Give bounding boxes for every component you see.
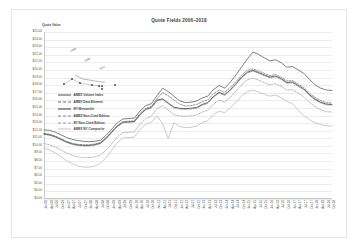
- x-axis-tick-label: Jan-09: [113, 200, 116, 209]
- y-axis-tick-label: $4.00: [34, 190, 42, 193]
- legend-item-label: AMEX NY Composite: [74, 127, 105, 131]
- y-axis-tick-label: $13.00: [33, 122, 42, 125]
- legend-item[interactable]: NY Non-Cited Edition: [58, 121, 109, 125]
- chart-legend: AMEX Volume IndexAMEX Data ElementNY Mer…: [58, 93, 109, 131]
- annotation-label: 2006: [70, 46, 78, 53]
- annotation-inset: 200620092012: [58, 40, 142, 90]
- x-axis-tick-label: Jan-18: [316, 200, 319, 209]
- y-axis-tick-label: $11.00: [33, 137, 42, 140]
- x-axis-tick-label: Jan-06: [45, 200, 48, 209]
- annotation-label: 2009: [84, 56, 92, 63]
- x-axis-tick-label: Oct-13: [220, 200, 223, 209]
- y-axis-tick-label: $24.00: [33, 38, 42, 41]
- x-axis-tick-label: Jul-17: [305, 200, 308, 208]
- x-axis-tick-label: Jul-06: [56, 200, 59, 208]
- y-axis-tick-label: $15.00: [33, 106, 42, 109]
- y-axis-tick-label: $25.00: [33, 30, 42, 33]
- y-axis-tick-label: $17.00: [33, 91, 42, 94]
- y-axis-tick-label: $5.00: [34, 182, 42, 185]
- x-axis-tick-label: Apr-09: [119, 200, 122, 209]
- y-axis-title: Quote Value: [42, 23, 60, 27]
- y-axis-tick-label: $6.00: [34, 175, 42, 178]
- x-axis-tick-label: Jan-12: [181, 200, 184, 209]
- x-axis-tick-label: Jan-14: [226, 200, 229, 209]
- annotation-marker: [91, 84, 93, 86]
- x-axis-tick-label: Oct-16: [288, 200, 291, 209]
- y-axis-tick-label: $10.00: [33, 144, 42, 147]
- y-axis-tick-label: $22.00: [33, 53, 42, 56]
- y-axis-tick-label: $21.00: [33, 61, 42, 64]
- x-axis-tick-label: Apr-17: [299, 200, 302, 209]
- x-axis-tick-label: Jul-15: [260, 200, 263, 208]
- y-axis-tick-label: $14.00: [33, 114, 42, 117]
- legend-item-label: NY Non-Cited Edition: [74, 121, 105, 125]
- y-axis-tick-label: $8.00: [34, 159, 42, 162]
- y-axis-tick-label: $20.00: [33, 68, 42, 71]
- x-axis-tick-label: Oct-08: [107, 200, 110, 209]
- annotation-marker: [63, 83, 65, 85]
- x-axis-tick-label: Jul-14: [237, 200, 240, 208]
- annotation-marker: [101, 85, 103, 87]
- y-axis-tick-label: $3.00: [34, 197, 42, 200]
- y-axis-tick-label: $19.00: [33, 76, 42, 79]
- x-axis-tick-label: Oct-17: [311, 200, 314, 209]
- x-axis-tick-label: Oct-06: [62, 200, 65, 209]
- legend-item[interactable]: AMEX Volume Index: [58, 93, 109, 97]
- x-axis-tick-label: Jul-10: [147, 200, 150, 208]
- x-axis-tick-label: Jan-11: [158, 200, 161, 209]
- x-axis-tick-label: Jul-07: [79, 200, 82, 208]
- legend-color-swatch: [58, 100, 71, 103]
- x-axis-tick-label: Jul-12: [192, 200, 195, 208]
- y-axis-tick-label: $9.00: [34, 152, 42, 155]
- legend-item[interactable]: AMEX NY Composite: [58, 127, 109, 131]
- x-axis-tick-label: Oct-10: [152, 200, 155, 209]
- x-axis-tick-label: Apr-08: [96, 200, 99, 209]
- legend-color-swatch: [58, 121, 71, 124]
- chart-title: Quote Fields 2006–2018: [12, 18, 346, 23]
- x-axis-tick-label: Oct-15: [265, 200, 268, 209]
- x-axis-tick-label: Apr-15: [254, 200, 257, 209]
- legend-item[interactable]: NY Mercantile: [58, 107, 109, 111]
- y-axis-tick-label: $18.00: [33, 84, 42, 87]
- x-axis-tick-label: Jul-08: [102, 200, 105, 208]
- annotation-label: 2012: [99, 64, 107, 71]
- y-axis-tick-label: $7.00: [34, 167, 42, 170]
- x-axis-tick-label: Apr-10: [141, 200, 144, 209]
- x-axis-tick-label: Oct-07: [85, 200, 88, 209]
- legend-item-label: AMEX Data Element: [74, 100, 103, 104]
- x-axis-tick-label: Jul-16: [282, 200, 285, 208]
- annotation-marker: [98, 85, 100, 87]
- x-axis-tick-label: Apr-13: [209, 200, 212, 209]
- annotation-line: [75, 75, 105, 82]
- x-axis-tick-label: Oct-11: [175, 200, 178, 208]
- annotation-marker: [101, 88, 103, 90]
- legend-item-label: AMEX Volume Index: [74, 93, 104, 97]
- x-axis-tick-label: Jul-09: [124, 200, 127, 208]
- legend-color-swatch: [58, 107, 71, 110]
- y-axis-tick-label: $16.00: [33, 99, 42, 102]
- legend-color-swatch: [58, 94, 71, 97]
- annotation-line: [64, 79, 99, 86]
- x-axis-tick-label: Jan-17: [294, 200, 297, 209]
- annotation-marker: [114, 84, 116, 86]
- x-axis-tick-label: Apr-07: [73, 200, 76, 209]
- legend-item-label: AMEX Non-Cited Edition: [74, 114, 110, 118]
- legend-item[interactable]: AMEX Data Element: [58, 100, 109, 104]
- annotation-marker: [71, 78, 73, 80]
- x-axis-tick-label: Apr-16: [277, 200, 280, 209]
- x-axis-tick-label: Oct-09: [130, 200, 133, 209]
- legend-item[interactable]: AMEX Non-Cited Edition: [58, 114, 109, 118]
- y-axis-tick-label: $23.00: [33, 46, 42, 49]
- x-axis-tick-label: Oct-14: [243, 200, 246, 209]
- x-axis-tick-label: Apr-14: [232, 200, 235, 209]
- chart-frame: Quote Fields 2006–2018 Quote Value $25.0…: [11, 9, 347, 238]
- x-axis-tick-label: Jan-15: [248, 200, 251, 209]
- x-axis-tick-label: Jul-11: [169, 200, 172, 208]
- y-axis-tick-label: $12.00: [33, 129, 42, 132]
- x-axis-tick-label: Jan-08: [90, 200, 93, 209]
- x-axis-tick-label: Jan-07: [68, 200, 71, 209]
- x-axis-tick-label: Apr-12: [186, 200, 189, 209]
- x-axis-tick-label: Jan-16: [271, 200, 274, 209]
- legend-item-label: NY Mercantile: [74, 107, 94, 111]
- x-axis-tick-label: Jul-18: [328, 200, 331, 208]
